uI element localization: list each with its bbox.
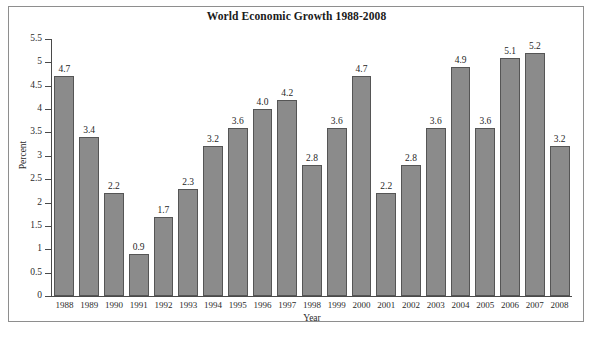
x-tick-label: 1991 (126, 300, 151, 310)
bar-value-label: 2.3 (176, 177, 201, 187)
bar-value-label: 3.6 (473, 116, 498, 126)
bar-slot: 5.2 (522, 39, 547, 296)
y-tick-label: 1.5 (30, 221, 42, 230)
bar-value-label: 5.2 (522, 41, 547, 51)
bar-value-label: 4.7 (349, 64, 374, 74)
bar[interactable] (500, 58, 520, 296)
bar[interactable] (352, 76, 372, 296)
x-tick-label: 2002 (399, 300, 424, 310)
bar-slot: 3.2 (547, 39, 572, 296)
y-tick-mark (45, 39, 51, 40)
x-tick-label: 2001 (374, 300, 399, 310)
y-tick-label: 2.5 (30, 174, 42, 183)
bar-slot: 4.0 (250, 39, 275, 296)
bar[interactable] (426, 128, 446, 296)
x-axis-title: Year (52, 313, 572, 323)
bar-slot: 2.8 (300, 39, 325, 296)
bar-value-label: 1.7 (151, 205, 176, 215)
bar-slot: 2.2 (374, 39, 399, 296)
bar-slot: 5.1 (498, 39, 523, 296)
bar[interactable] (302, 165, 322, 296)
y-axis-title: Percent (18, 125, 28, 185)
x-axis-line (51, 296, 572, 297)
y-tick-label: 4 (37, 104, 42, 113)
bar[interactable] (104, 193, 124, 296)
bar-slot: 3.6 (324, 39, 349, 296)
bar[interactable] (451, 67, 471, 296)
x-tick-label: 2003 (423, 300, 448, 310)
bar-slot: 4.2 (275, 39, 300, 296)
x-tick-label: 1996 (250, 300, 275, 310)
bar-slot: 3.6 (473, 39, 498, 296)
bar-slot: 4.7 (52, 39, 77, 296)
bar[interactable] (178, 189, 198, 296)
y-tick-mark (45, 249, 51, 250)
bar[interactable] (401, 165, 421, 296)
x-tick-label: 1992 (151, 300, 176, 310)
bar-slot: 0.9 (126, 39, 151, 296)
x-tick-label: 2008 (547, 300, 572, 310)
chart-title: World Economic Growth 1988-2008 (0, 10, 593, 22)
x-tick-label: 2007 (522, 300, 547, 310)
bar[interactable] (277, 100, 297, 296)
y-tick-label: 1 (37, 244, 42, 253)
x-tick-label: 1989 (77, 300, 102, 310)
y-tick-label: 0 (37, 291, 42, 300)
bar-value-label: 2.2 (374, 181, 399, 191)
bar-value-label: 2.8 (399, 153, 424, 163)
bar-value-label: 4.7 (52, 64, 77, 74)
y-tick-mark (45, 132, 51, 133)
bar-value-label: 0.9 (126, 242, 151, 252)
bar-slot: 3.2 (201, 39, 226, 296)
bar[interactable] (129, 254, 149, 296)
x-tick-label: 2000 (349, 300, 374, 310)
bar[interactable] (79, 137, 99, 296)
y-tick-label: 3.5 (30, 127, 42, 136)
bar-slot: 3.6 (225, 39, 250, 296)
bar[interactable] (475, 128, 495, 296)
y-tick-label: 0.5 (30, 268, 42, 277)
bar[interactable] (550, 146, 570, 296)
bar-value-label: 3.2 (547, 134, 572, 144)
bar-slot: 4.9 (448, 39, 473, 296)
x-tick-label: 1988 (52, 300, 77, 310)
bar-slot: 4.7 (349, 39, 374, 296)
y-tick-mark (45, 203, 51, 204)
y-tick-mark (45, 226, 51, 227)
bar[interactable] (327, 128, 347, 296)
bar[interactable] (203, 146, 223, 296)
bar-slot: 2.2 (102, 39, 127, 296)
y-tick-mark (45, 86, 51, 87)
x-tick-label: 1994 (201, 300, 226, 310)
y-tick-label: 5 (37, 57, 42, 66)
bar[interactable] (253, 109, 273, 296)
bar-value-label: 3.6 (324, 116, 349, 126)
bar[interactable] (376, 193, 396, 296)
bar-value-label: 3.6 (225, 116, 250, 126)
bar[interactable] (525, 53, 545, 296)
bar-value-label: 4.2 (275, 88, 300, 98)
x-tick-label: 2004 (448, 300, 473, 310)
y-tick-label: 2 (37, 198, 42, 207)
bar[interactable] (228, 128, 248, 296)
y-tick-mark (45, 296, 51, 297)
x-tick-label: 1990 (102, 300, 127, 310)
bar-value-label: 2.2 (102, 181, 127, 191)
bar[interactable] (154, 217, 174, 296)
bar-slot: 3.4 (77, 39, 102, 296)
bar[interactable] (54, 76, 74, 296)
bar-slot: 2.8 (399, 39, 424, 296)
bar-value-label: 5.1 (498, 46, 523, 56)
bar-value-label: 3.2 (201, 134, 226, 144)
y-tick-mark (45, 62, 51, 63)
bar-value-label: 3.6 (423, 116, 448, 126)
y-tick-label: 4.5 (30, 81, 42, 90)
x-tick-label: 2006 (498, 300, 523, 310)
bar-value-label: 4.0 (250, 97, 275, 107)
x-tick-label: 2005 (473, 300, 498, 310)
x-tick-label: 1998 (300, 300, 325, 310)
y-tick-mark (45, 179, 51, 180)
y-tick-label: 5.5 (30, 34, 42, 43)
y-tick-mark (45, 273, 51, 274)
x-tick-label: 1995 (225, 300, 250, 310)
